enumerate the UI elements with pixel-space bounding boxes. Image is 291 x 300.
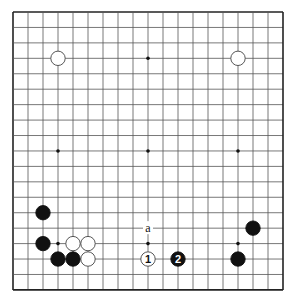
move-number-label: 2 — [175, 253, 181, 265]
star-point-icon — [236, 242, 240, 246]
star-point-icon — [146, 149, 150, 153]
white-stone — [81, 236, 95, 250]
black-stone — [36, 236, 50, 250]
black-stone — [51, 252, 65, 266]
white-stone — [231, 51, 245, 65]
black-stone — [66, 252, 80, 266]
go-board: a 12 — [0, 0, 291, 300]
star-point-icon — [236, 149, 240, 153]
move-number-label: 1 — [145, 253, 151, 265]
black-stone — [246, 221, 260, 235]
black-stone — [231, 252, 245, 266]
marker-label: a — [145, 221, 151, 235]
star-point-icon — [56, 242, 60, 246]
black-stone — [36, 206, 50, 220]
white-stone — [66, 236, 80, 250]
star-point-icon — [146, 57, 150, 61]
white-stone — [51, 51, 65, 65]
star-point-icon — [56, 149, 60, 153]
board-markers: a — [143, 221, 153, 235]
star-point-icon — [146, 242, 150, 246]
white-stone — [81, 252, 95, 266]
